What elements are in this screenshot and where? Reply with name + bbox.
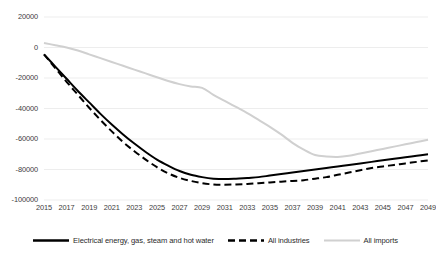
legend-label: Electrical energy, gas, steam and hot wa… [73,236,214,245]
legend-label: All industries [268,236,310,245]
x-tick-label: 2031 [217,203,233,213]
series-lines [44,43,428,185]
series-line [44,54,428,179]
x-tick-label: 2023 [126,203,142,213]
plot-area [44,17,428,200]
x-tick-label: 2037 [284,203,300,213]
y-tick-label: -80000 [16,166,38,174]
x-tick-label: 2047 [397,203,413,213]
series-line [44,54,428,184]
series-line [44,43,428,157]
x-tick-label: 2017 [59,203,75,213]
x-tick-label: 2015 [36,203,52,213]
x-tick-label: 2049 [420,203,436,213]
x-tick-label: 2041 [330,203,346,213]
y-tick-label: -40000 [16,105,38,113]
x-tick-label: 2021 [104,203,120,213]
y-tick-label: -100000 [12,196,38,204]
x-axis: 2015201720192021202320252027202920312033… [44,203,428,217]
y-axis: 200000-20000-40000-60000-80000-100000 [0,0,41,217]
plot-svg [44,17,428,200]
solid-line-swatch [33,236,69,245]
y-tick-label: 20000 [18,13,38,21]
x-tick-label: 2039 [307,203,323,213]
x-tick-label: 2019 [81,203,97,213]
dashed-line-swatch [228,236,264,245]
x-tick-label: 2045 [375,203,391,213]
gridlines [44,17,428,200]
legend-label: All imports [364,236,398,245]
gray-line-swatch [324,236,360,245]
x-tick-label: 2043 [352,203,368,213]
x-tick-label: 2025 [149,203,165,213]
y-tick-label: 0 [34,44,38,52]
y-tick-label: -20000 [16,74,38,82]
y-tick-label: -60000 [16,135,38,143]
legend-item[interactable]: All industries [228,236,310,245]
legend-item[interactable]: Electrical energy, gas, steam and hot wa… [33,236,214,245]
legend-item[interactable]: All imports [324,236,398,245]
x-tick-label: 2035 [262,203,278,213]
x-tick-label: 2027 [171,203,187,213]
chart-legend: Electrical energy, gas, steam and hot wa… [0,230,431,250]
x-tick-label: 2029 [194,203,210,213]
x-tick-label: 2033 [239,203,255,213]
